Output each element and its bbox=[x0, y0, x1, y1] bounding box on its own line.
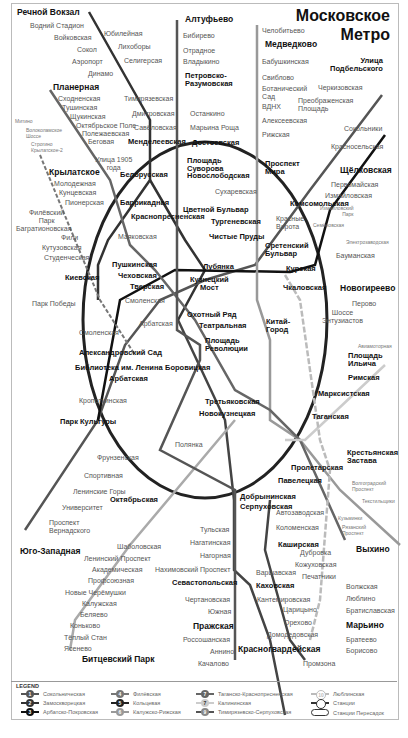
station-sretensky[interactable]: СретенскийБульвар bbox=[265, 242, 309, 258]
station-kachalovo[interactable]: Качалово bbox=[198, 660, 229, 668]
station-konkovo[interactable]: Коньково bbox=[70, 622, 100, 630]
station-kuzminki[interactable]: Кузьминки bbox=[338, 515, 362, 521]
station-volgogradsky[interactable]: ВолгоградскийПроспект bbox=[352, 480, 386, 492]
station-arbatskaya-3[interactable]: Арбатская bbox=[109, 375, 148, 383]
station-tsaritsyno[interactable]: Царицыно bbox=[283, 606, 317, 614]
station-planernaya[interactable]: Планерная bbox=[53, 83, 99, 91]
station-dubrovka[interactable]: Дубровка bbox=[300, 549, 331, 557]
station-novokuznetskaya[interactable]: Новокузнецкая bbox=[199, 410, 255, 418]
station-kaluzhskaya[interactable]: Калужская bbox=[82, 600, 117, 608]
station-domodedovskaya[interactable]: Домодедовская bbox=[267, 631, 318, 639]
station-dostoevskaya[interactable]: Достоевская bbox=[192, 139, 239, 147]
station-medvedkovo[interactable]: Медведково bbox=[265, 40, 317, 48]
station-proletarskaya[interactable]: Пролетарская bbox=[291, 464, 343, 472]
station-tekstilshchiki[interactable]: Текстильщики bbox=[362, 498, 395, 504]
station-perovo[interactable]: Перово bbox=[352, 300, 376, 308]
station-kropotkinskaya[interactable]: Кропоткинская bbox=[79, 397, 127, 405]
station-sukharevskaya[interactable]: Сухаревская bbox=[215, 188, 257, 196]
station-podbelskogo[interactable]: УлицаПодбельского bbox=[330, 57, 383, 73]
station-tushinskaya[interactable]: Тушинская bbox=[62, 104, 97, 112]
station-semenovskaya[interactable]: Семёновская bbox=[313, 222, 344, 228]
station-park-pobedy[interactable]: Парк Победы bbox=[32, 300, 76, 308]
station-sviblovo[interactable]: Свиблово bbox=[262, 74, 294, 82]
station-orekhovo[interactable]: Орехово bbox=[284, 619, 312, 627]
station-varshavskaya[interactable]: Варшавская bbox=[256, 569, 296, 577]
station-pushkinskaya[interactable]: Пушкинская bbox=[112, 261, 157, 269]
station-prazhskaya[interactable]: Пражская bbox=[193, 622, 234, 630]
station-bagrationovskaya[interactable]: Багратионовская bbox=[16, 225, 71, 233]
station-arbatskaya-4[interactable]: Арбатская bbox=[139, 320, 173, 328]
station-chertanovskaya[interactable]: Чертановская bbox=[185, 596, 230, 604]
station-vernadskogo[interactable]: ПроспектВернадского bbox=[49, 519, 90, 535]
station-vdnh[interactable]: ВДНХ bbox=[262, 103, 281, 111]
station-belorusskaya[interactable]: Белорусская bbox=[120, 171, 168, 179]
station-kashirskaya[interactable]: Каширская bbox=[278, 541, 319, 549]
station-babushkinskaya[interactable]: Бабушкинская bbox=[262, 58, 309, 66]
station-chkalovskaya[interactable]: Чкаловская bbox=[283, 284, 326, 292]
station-smolenskaya-3[interactable]: Смоленская bbox=[79, 329, 119, 337]
station-lubyanka[interactable]: Лубянка bbox=[203, 263, 234, 271]
station-molodezhnaya[interactable]: Молодежная bbox=[54, 180, 96, 188]
station-okhotny[interactable]: Охотный Ряд bbox=[187, 311, 237, 319]
station-mendeleevskaya[interactable]: Менделеевская bbox=[128, 138, 186, 146]
station-filevsky[interactable]: ФилёвскийПарк bbox=[29, 209, 64, 225]
station-kievskaya[interactable]: Киевская bbox=[65, 274, 99, 282]
station-nakhimovsky[interactable]: Нахимовский Проспект bbox=[155, 566, 230, 574]
station-chistye[interactable]: Чистые Пруды bbox=[209, 233, 264, 241]
station-kozhukhovskaya[interactable]: Кожуховская bbox=[295, 561, 337, 569]
station-kolomenskaya[interactable]: Коломенская bbox=[276, 524, 319, 532]
station-frunzenskaya[interactable]: Фрунзенская bbox=[97, 454, 139, 462]
station-baumanskaya[interactable]: Бауманская bbox=[336, 252, 375, 260]
station-krasnye-vorota[interactable]: КрасныеВорота bbox=[276, 215, 304, 231]
station-maryina[interactable]: Марьина Роща bbox=[190, 124, 239, 132]
station-tretyakovskaya[interactable]: Третьяковская bbox=[205, 398, 260, 406]
station-skhodnenskaya[interactable]: Сходненская bbox=[58, 95, 100, 103]
station-akademicheskaya[interactable]: Академическая bbox=[92, 566, 142, 574]
station-vykhino[interactable]: Выхино bbox=[356, 545, 390, 553]
station-maryino[interactable]: Марьино bbox=[346, 621, 384, 629]
station-vladykino[interactable]: Владыкино bbox=[183, 58, 220, 66]
station-seligerskaya[interactable]: Селигерсая bbox=[124, 57, 162, 65]
station-cherkizovskaya[interactable]: Черкизовская bbox=[318, 84, 363, 92]
station-aviamotornaya[interactable]: Авиамоторная bbox=[358, 343, 392, 349]
station-universitet[interactable]: Университет bbox=[62, 504, 103, 512]
station-volokolamskoe[interactable]: ВолоколамскоеШоссе bbox=[26, 127, 62, 139]
station-park-kultury[interactable]: Парк Культуры bbox=[60, 418, 116, 426]
station-pionerskaya[interactable]: Пионерская bbox=[65, 199, 104, 207]
station-dmitrovskaya[interactable]: Дмитровская bbox=[132, 110, 175, 118]
station-studencheskaya[interactable]: Студенческая bbox=[44, 254, 89, 262]
station-volzhskaya[interactable]: Волжская bbox=[346, 583, 378, 591]
station-petrovsko[interactable]: Петровско-Разумовская bbox=[185, 72, 233, 88]
station-belyaevo[interactable]: Беляево bbox=[80, 611, 108, 619]
station-sportivnaya[interactable]: Спортивная bbox=[84, 472, 123, 480]
station-kuznetsky[interactable]: КузнецкийМост bbox=[190, 276, 229, 292]
station-revolyutsii[interactable]: ПлощадьРеволюции bbox=[205, 337, 248, 353]
station-kantemirovskaya[interactable]: Кантемировская bbox=[257, 596, 310, 604]
station-bratevo[interactable]: Братеево bbox=[346, 636, 377, 644]
station-kakhovskaya[interactable]: Каховская bbox=[256, 582, 294, 590]
station-yuzhnaya[interactable]: Южная bbox=[208, 608, 231, 616]
station-borisovo[interactable]: Борисово bbox=[346, 647, 377, 655]
station-aleksandrovsky[interactable]: Александровский Сад bbox=[79, 349, 162, 357]
station-yubileynaya[interactable]: Юбилейная bbox=[104, 30, 142, 38]
station-krasnoselskaya[interactable]: Красносельская bbox=[331, 143, 383, 151]
station-shchelkovskaya[interactable]: Щёлковская bbox=[340, 166, 392, 174]
station-profsoyuznaya[interactable]: Профсоюзная bbox=[88, 577, 134, 585]
station-mitino[interactable]: Митино bbox=[15, 118, 33, 124]
station-kurskaya[interactable]: Курская bbox=[286, 265, 316, 273]
station-turgenevskaya[interactable]: Тургеневская bbox=[211, 218, 261, 226]
station-tverskaya[interactable]: Тверская bbox=[130, 283, 164, 291]
station-kutuzovskaya[interactable]: Кутузовская bbox=[42, 244, 81, 252]
station-fili[interactable]: Фили bbox=[61, 234, 78, 242]
station-chelobitevo[interactable]: Челобитьево bbox=[262, 27, 305, 35]
station-timiryazevskaya[interactable]: Тимирязевская bbox=[124, 95, 173, 103]
station-preobrazhenskaya[interactable]: ПреображенскаяПлощадь bbox=[298, 97, 353, 113]
station-sokol[interactable]: Сокол bbox=[77, 46, 97, 54]
station-marksistskaya[interactable]: Марксистская bbox=[318, 390, 370, 398]
station-borovitskaya[interactable]: Боровицкая bbox=[165, 364, 210, 372]
station-tulskaya[interactable]: Тульская bbox=[200, 526, 229, 534]
station-tyoply[interactable]: Тёплый Стан bbox=[64, 634, 107, 642]
station-elektrozavodskaya[interactable]: Электрозаводская bbox=[346, 239, 389, 245]
station-oktyabrskoe[interactable]: Октябрьское Поле bbox=[76, 122, 136, 130]
station-sevastopolskaya[interactable]: Севастопольская bbox=[172, 579, 237, 587]
